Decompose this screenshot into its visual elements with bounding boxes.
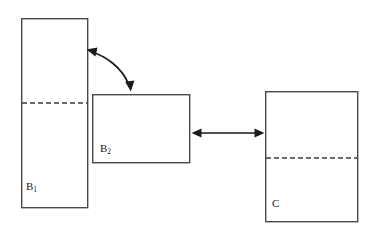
straight-arrow-b2-c [192, 128, 265, 137]
curved-arrow-head-lower [125, 80, 134, 91]
box-b2-label: B2 [100, 143, 111, 154]
box-c-label: C [272, 198, 279, 209]
box-c-label-main: C [272, 197, 279, 209]
diagram-vector-layer [0, 0, 377, 237]
box-b2-label-subscript: 2 [107, 147, 111, 156]
box-c[interactable] [266, 92, 358, 222]
box-b1-label-subscript: 1 [33, 185, 37, 194]
straight-arrow-head-right [255, 128, 265, 137]
curved-arrow-path [92, 52, 129, 85]
straight-arrow-head-left [192, 128, 202, 137]
diagram-canvas: B1 B2 C [0, 0, 377, 237]
curved-arrow-b1-b2 [87, 48, 135, 92]
box-b1-label: B1 [26, 181, 37, 192]
